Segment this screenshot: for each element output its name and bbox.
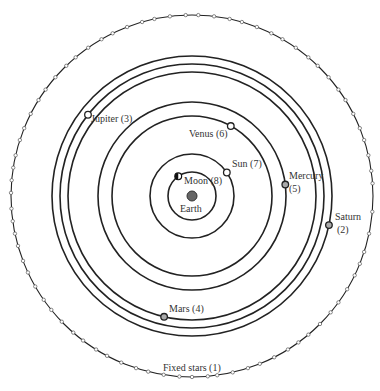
mercury-icon <box>282 181 289 188</box>
star-icon <box>60 320 63 323</box>
star-icon <box>54 76 57 79</box>
star-icon <box>37 98 40 101</box>
star-icon <box>147 370 150 373</box>
mercury-label-number: (5) <box>289 183 301 195</box>
jupiter-label: Jupiter (3) <box>91 113 132 125</box>
star-icon <box>50 308 53 311</box>
star-icon <box>329 311 332 314</box>
mercury-label-name: Mercury <box>289 170 323 182</box>
star-icon <box>258 362 261 365</box>
star-icon <box>94 348 97 351</box>
venus-icon <box>227 123 234 130</box>
star-icon <box>86 46 89 49</box>
star-icon <box>16 244 19 247</box>
star-icon <box>10 207 13 210</box>
star-icon <box>371 210 374 213</box>
star-icon <box>240 20 243 23</box>
star-icon <box>120 361 123 364</box>
star-icon <box>270 32 273 35</box>
star-icon <box>367 154 370 157</box>
star-icon <box>370 169 373 172</box>
star-icon <box>231 371 234 374</box>
star-icon <box>34 285 37 288</box>
earth-label: Earth <box>180 203 202 215</box>
mars-icon <box>161 314 168 321</box>
star-icon <box>111 32 114 35</box>
star-icon <box>337 88 340 91</box>
star-icon <box>13 232 16 235</box>
saturn-label-name: Saturn <box>335 211 361 223</box>
star-icon <box>168 15 171 18</box>
star-icon <box>74 56 77 59</box>
star-icon <box>353 274 356 277</box>
star-icon <box>316 64 319 67</box>
star-icon <box>190 375 193 378</box>
star-icon <box>345 288 348 291</box>
star-icon <box>371 182 374 185</box>
star-icon <box>9 191 12 194</box>
star-icon <box>44 88 47 91</box>
star-icon <box>318 322 321 325</box>
star-icon <box>294 46 297 49</box>
star-icon <box>281 38 284 41</box>
star-icon <box>307 56 310 59</box>
star-icon <box>72 331 75 334</box>
star-icon <box>125 25 128 28</box>
star-icon <box>10 179 13 182</box>
star-icon <box>100 38 103 41</box>
sun-label: Sun (7) <box>232 158 262 170</box>
star-icon <box>81 339 84 342</box>
venus-label: Venus (6) <box>189 128 228 140</box>
star-icon <box>140 20 143 23</box>
sun-icon <box>224 169 231 176</box>
star-icon <box>344 98 347 101</box>
star-icon <box>358 262 361 265</box>
star-icon <box>14 154 17 157</box>
star-icon <box>11 219 14 222</box>
star-icon <box>197 13 200 16</box>
star-icon <box>272 356 275 359</box>
star-icon <box>206 375 209 378</box>
star-icon <box>105 354 108 357</box>
star-icon <box>178 375 181 378</box>
saturn-icon <box>326 222 333 229</box>
saturn-label-number: (2) <box>337 224 349 236</box>
star-icon <box>22 126 25 129</box>
star-icon <box>307 333 310 336</box>
star-icon <box>153 17 156 20</box>
star-icon <box>65 64 68 67</box>
star-icon <box>367 232 370 235</box>
star-icon <box>362 138 365 141</box>
star-icon <box>29 112 32 115</box>
fixed-stars-label: Fixed stars (1) <box>163 362 221 374</box>
star-icon <box>21 259 24 262</box>
moon-label: Moon (8) <box>184 175 222 187</box>
star-icon <box>337 301 340 304</box>
star-icon <box>255 25 258 28</box>
star-icon <box>212 15 215 18</box>
star-icon <box>215 374 218 377</box>
star-icon <box>286 348 289 351</box>
star-icon <box>327 76 330 79</box>
earth-icon <box>187 191 197 201</box>
star-icon <box>246 366 249 369</box>
star-icon <box>184 13 187 16</box>
star-icon <box>297 341 300 344</box>
geocentric-diagram <box>0 0 380 391</box>
mars-label: Mars (4) <box>169 303 204 315</box>
star-icon <box>42 298 45 301</box>
star-icon <box>134 366 137 369</box>
star-icon <box>362 250 365 253</box>
star-icon <box>352 112 355 115</box>
star-icon <box>18 138 21 141</box>
star-icon <box>358 126 361 129</box>
star-icon <box>26 271 29 274</box>
star-icon <box>12 166 15 169</box>
star-icon <box>228 17 231 20</box>
